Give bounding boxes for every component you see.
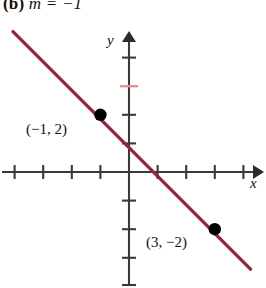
x-axis-label: x <box>250 175 257 192</box>
y-axis-arrowhead <box>122 31 136 42</box>
coordinate-plane <box>0 0 266 288</box>
data-point-marker <box>209 223 221 235</box>
y-axis-label: y <box>107 32 114 49</box>
x-axis-group <box>2 165 264 179</box>
figure-panel: (b) m = −1 <box>0 0 266 288</box>
y-axis-group <box>120 31 138 286</box>
data-point-marker <box>94 109 106 121</box>
point-label-second: (3, −2) <box>146 234 187 251</box>
point-label-first: (−1, 2) <box>26 121 67 138</box>
